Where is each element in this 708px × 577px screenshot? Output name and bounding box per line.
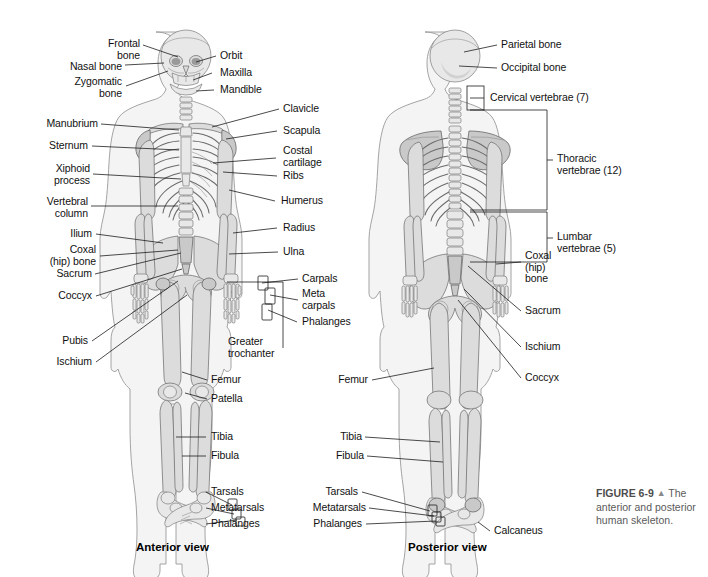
- leader-ulna: [229, 252, 278, 254]
- label-sacrum: Sacrum: [40, 268, 92, 280]
- leader-zygomatic-bone: [126, 71, 168, 86]
- label-ulna: Ulna: [283, 246, 304, 258]
- label-pubis: Pubis: [44, 335, 88, 347]
- leader-maxilla: [193, 73, 212, 80]
- label-metatarsals-p: Metatarsals: [292, 502, 366, 514]
- label-ischium-p: Ischium: [525, 341, 560, 353]
- leader-pubis: [92, 281, 178, 341]
- label-calcaneus: Calcaneus: [494, 525, 543, 537]
- label-ischium: Ischium: [38, 356, 92, 368]
- leader-costal-cartilage: [213, 158, 276, 163]
- figure-caption-rest: anterior and posterior human skeleton.: [596, 501, 696, 526]
- leader-sacrum-p: [468, 266, 521, 311]
- leader-occipital-bone: [459, 66, 497, 68]
- leader-patella: [185, 393, 207, 399]
- label-patella: Patella: [211, 393, 242, 405]
- label-carpals: Carpals: [302, 273, 337, 285]
- leader-ischium: [96, 295, 187, 362]
- label-parietal-bone: Parietal bone: [501, 39, 562, 51]
- leader-coccyx: [96, 269, 182, 296]
- leader-mandible: [196, 90, 214, 91]
- label-mandible: Mandible: [220, 84, 262, 96]
- leader-ilium: [96, 234, 163, 243]
- label-tibia-p: Tibia: [322, 431, 362, 443]
- label-sacrum-p: Sacrum: [525, 305, 561, 317]
- label-greater-trochanter: Greater trochanter: [228, 336, 274, 359]
- leader-fibula-p: [367, 456, 443, 462]
- label-phalanges-p: Phalanges: [296, 518, 362, 530]
- label-tarsals-p: Tarsals: [306, 486, 358, 498]
- label-coccyx: Coccyx: [40, 290, 92, 302]
- figure-number: FIGURE 6-9: [596, 487, 654, 499]
- leader-tibia-p: [365, 437, 440, 442]
- label-ilium: Ilium: [52, 228, 92, 240]
- label-xiphoid-process: Xiphoid process: [42, 163, 90, 186]
- leader-scapula: [226, 131, 277, 139]
- label-tarsals: Tarsals: [211, 486, 244, 498]
- figure-caption: FIGURE 6-9 ▲ The anterior and posterior …: [596, 487, 704, 527]
- figure-caption-lead: The: [668, 487, 686, 499]
- posterior-view-caption: Posterior view: [408, 541, 487, 553]
- label-manubrium: Manubrium: [32, 118, 98, 130]
- label-vertebral-column: Vertebral column: [36, 196, 88, 219]
- label-femur-p: Femur: [322, 374, 368, 386]
- label-maxilla: Maxilla: [220, 67, 252, 79]
- label-occipital-bone: Occipital bone: [501, 62, 566, 74]
- label-coccyx-p: Coccyx: [525, 372, 559, 384]
- label-costal-cartilage: Costal cartilage: [283, 145, 322, 168]
- label-scapula: Scapula: [283, 125, 320, 137]
- label-sternum: Sternum: [32, 140, 88, 152]
- label-tibia: Tibia: [211, 431, 233, 443]
- label-metacarpals: Meta carpals: [302, 288, 335, 311]
- label-nasal-bone: Nasal bone: [34, 61, 122, 73]
- vertebrae-brackets: [467, 86, 547, 262]
- label-humerus: Humerus: [281, 195, 323, 207]
- leader-orbit: [196, 56, 216, 62]
- leader-clavicle: [212, 109, 279, 127]
- leader-sternum: [92, 146, 179, 150]
- label-phalanges-hand: Phalanges: [302, 316, 351, 328]
- leader-tarsals-p: [362, 492, 430, 511]
- label-cervical-vertebrae: Cervical vertebrae (7): [490, 92, 589, 104]
- posterior-skeleton-figure: [369, 30, 511, 577]
- label-ribs: Ribs: [283, 170, 304, 182]
- label-thoracic-vertebrae: Thoracic vertebrae (12): [557, 153, 622, 176]
- leader-calcaneus: [478, 522, 490, 531]
- leader-nasal-bone: [125, 63, 164, 65]
- label-coxal-hip-bone-p: Coxal (hip) bone: [525, 250, 551, 285]
- anterior-view-caption: Anterior view: [136, 541, 209, 553]
- leader-coxal-hip-bone: [100, 250, 178, 256]
- label-radius: Radius: [283, 222, 315, 234]
- leader-metacarpals: [270, 295, 298, 300]
- leader-sacrum: [95, 253, 181, 274]
- label-frontal-bone: Frontal bone: [54, 38, 140, 61]
- leader-ribs: [223, 172, 277, 176]
- leader-coccyx-p: [458, 300, 521, 378]
- leader-ischium-p: [464, 289, 521, 347]
- leader-parietal-bone: [464, 45, 497, 52]
- triangle-marker: ▲: [657, 487, 666, 500]
- leader-frontal-bone: [143, 45, 178, 57]
- label-phalanges-foot: Phalanges: [211, 518, 260, 530]
- leader-phalanges-hand: [268, 310, 297, 322]
- leader-xiphoid-process: [93, 174, 181, 179]
- cervical-bracket: [467, 86, 484, 110]
- label-zygomatic-bone: Zygomatic bone: [36, 76, 122, 99]
- leader-humerus: [229, 190, 275, 201]
- label-coxal-hip-bone: Coxal (hip) bone: [28, 244, 96, 267]
- label-fibula-p: Fibula: [316, 450, 364, 462]
- leader-carpals: [262, 279, 298, 283]
- leader-femur-p: [372, 368, 434, 380]
- label-femur: Femur: [211, 374, 241, 386]
- label-fibula: Fibula: [211, 450, 239, 462]
- label-orbit: Orbit: [220, 50, 242, 62]
- figure-canvas: Frontal bone Nasal bone Zygomatic bone M…: [0, 0, 708, 577]
- leader-radius: [233, 228, 277, 233]
- leader-femur: [182, 372, 207, 380]
- leader-coxal-hip-bone-p: [496, 262, 521, 264]
- label-lumbar-vertebrae: Lumbar vertebrae (5): [557, 231, 616, 254]
- label-metatarsals: Metatarsals: [211, 502, 264, 514]
- leader-manubrium: [101, 124, 179, 130]
- leader-metatarsals-p: [369, 508, 434, 516]
- label-clavicle: Clavicle: [283, 103, 319, 115]
